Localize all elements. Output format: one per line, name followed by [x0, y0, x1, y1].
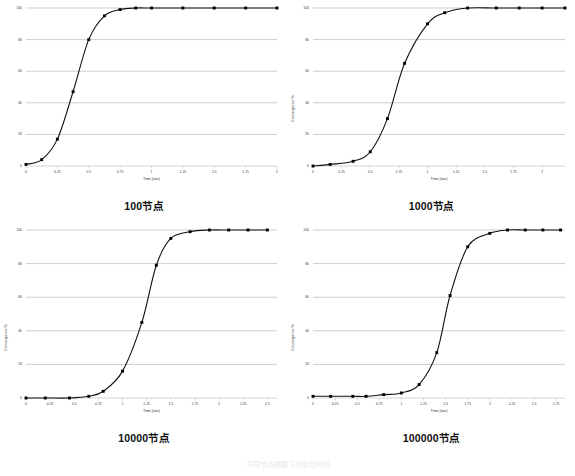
x-tick-label: 1.75	[192, 402, 199, 406]
convergence-figure-grid: 02040608010000.250.50.7511.251.51.752Tim…	[0, 0, 575, 476]
data-point	[103, 14, 106, 17]
y-tick-label: 0	[0, 164, 22, 168]
y-tick-label: 100	[287, 228, 309, 232]
data-point	[102, 390, 105, 393]
y-tick-label: 80	[287, 38, 309, 42]
x-axis-title: Time (sec)	[26, 177, 277, 181]
data-point	[140, 321, 143, 324]
panel-10000-nodes: 02040608010000.250.50.7511.251.51.7522.2…	[0, 222, 287, 454]
x-tick-label: 0.5	[368, 170, 373, 174]
data-point	[382, 393, 385, 396]
y-axis-title: Convergence %	[291, 324, 295, 351]
data-point	[169, 237, 172, 240]
data-point-markers	[25, 7, 279, 166]
y-tick-label: 0	[0, 396, 22, 400]
data-point	[403, 62, 406, 65]
chart-svg	[0, 0, 287, 196]
data-point	[400, 392, 403, 395]
panel-caption-1000-nodes: 1000节点	[287, 198, 575, 213]
data-point	[189, 230, 192, 233]
x-tick-label: 1.75	[464, 402, 471, 406]
data-point	[365, 395, 368, 398]
data-point	[466, 245, 469, 248]
gridlines	[26, 230, 277, 364]
gridlines	[26, 8, 277, 134]
data-point-markers	[312, 7, 567, 168]
x-tick-label: 1.25	[180, 170, 187, 174]
x-tick-label: 2.25	[240, 402, 247, 406]
data-point	[25, 397, 28, 400]
x-tick-label: 0.75	[95, 402, 102, 406]
x-tick-label: 2.5	[265, 402, 270, 406]
data-point	[386, 117, 389, 120]
data-point	[559, 229, 562, 232]
data-point	[87, 395, 90, 398]
convergence-curve	[26, 8, 277, 165]
data-point	[134, 7, 137, 10]
plot-area-100000-nodes: 02040608010000.250.50.7511.251.51.7522.2…	[287, 222, 575, 428]
y-tick-label: 100	[0, 6, 22, 10]
y-tick-label: 80	[287, 262, 309, 266]
data-point	[564, 7, 567, 10]
data-point	[541, 7, 544, 10]
data-point	[150, 7, 153, 10]
x-tick-label: 1.25	[143, 402, 150, 406]
plot-area-100-nodes: 02040608010000.250.50.7511.251.51.752Tim…	[0, 0, 287, 196]
x-tick-label: 0.5	[355, 402, 360, 406]
data-point	[488, 232, 491, 235]
x-tick-label: 2	[218, 402, 220, 406]
y-tick-label: 20	[287, 362, 309, 366]
x-tick-label: 0.5	[86, 170, 91, 174]
y-tick-label: 20	[287, 132, 309, 136]
data-point	[44, 397, 47, 400]
data-point-markers	[312, 229, 562, 398]
data-point	[449, 294, 452, 297]
data-point	[227, 229, 230, 232]
data-point	[276, 7, 279, 10]
y-tick-label: 60	[287, 295, 309, 299]
y-tick-label: 80	[0, 38, 22, 42]
data-point	[495, 7, 498, 10]
y-tick-label: 20	[0, 132, 22, 136]
y-tick-label: 60	[0, 69, 22, 73]
data-point	[247, 229, 250, 232]
y-tick-label: 80	[0, 262, 22, 266]
data-point	[72, 90, 75, 93]
data-point	[329, 395, 332, 398]
data-point	[312, 165, 315, 168]
x-tick-label: 1.5	[212, 170, 217, 174]
data-point	[25, 163, 28, 166]
data-point	[426, 22, 429, 25]
data-point	[443, 11, 446, 14]
data-point	[68, 397, 71, 400]
data-point	[119, 8, 122, 11]
y-tick-label: 40	[0, 101, 22, 105]
convergence-curve	[313, 230, 561, 397]
x-tick-label: 2.25	[509, 402, 516, 406]
data-point	[244, 7, 247, 10]
x-tick-label: 1.25	[420, 402, 427, 406]
data-point	[208, 229, 211, 232]
data-point	[418, 383, 421, 386]
panel-100-nodes: 02040608010000.250.50.7511.251.51.752Tim…	[0, 0, 287, 222]
data-point	[181, 7, 184, 10]
x-tick-label: 2.75	[553, 402, 560, 406]
x-tick-label: 0.75	[396, 170, 403, 174]
x-tick-label: 0.25	[332, 402, 339, 406]
x-axis-title: Time (sec)	[313, 409, 565, 413]
data-point	[87, 38, 90, 41]
y-axis-title: Convergence %	[291, 95, 295, 122]
panel-100000-nodes: 02040608010000.250.50.7511.251.51.7522.2…	[287, 222, 575, 454]
y-tick-label: 100	[0, 228, 22, 232]
plot-area-10000-nodes: 02040608010000.250.50.7511.251.51.7522.2…	[0, 222, 287, 428]
x-tick-label: 1	[400, 402, 402, 406]
data-point	[213, 7, 216, 10]
data-point	[518, 7, 521, 10]
x-axis-title: Time (sec)	[313, 177, 565, 181]
x-tick-label: 1.5	[443, 402, 448, 406]
gridlines	[313, 8, 565, 134]
x-tick-label: 0.75	[117, 170, 124, 174]
x-tick-label: 1.75	[242, 170, 249, 174]
x-tick-label: 0.75	[376, 402, 383, 406]
data-point	[466, 7, 469, 10]
